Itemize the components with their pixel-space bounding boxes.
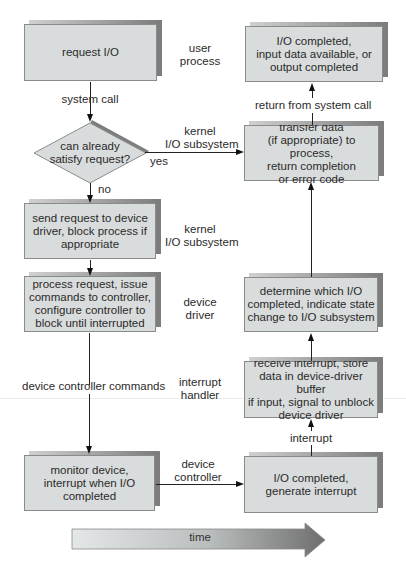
label-no: no bbox=[98, 183, 111, 196]
arrowhead-down-icon bbox=[86, 446, 92, 454]
box-request-io: request I/O bbox=[24, 24, 157, 81]
box-receive-interrupt: receive interrupt, store data in device-… bbox=[244, 361, 378, 418]
edge-monitor-to-io-completed bbox=[156, 484, 237, 485]
box-monitor-device: monitor device, interrupt when I/O compl… bbox=[24, 455, 155, 511]
arrowhead-down-icon bbox=[87, 114, 93, 122]
layer-interrupt-handler: interrupt handler bbox=[172, 376, 228, 402]
time-label: time bbox=[170, 531, 230, 543]
arrowhead-up-icon bbox=[309, 83, 315, 91]
label-system-call: system call bbox=[60, 93, 120, 106]
layer-kernel-io-2: kernel I/O subsystem bbox=[165, 223, 235, 249]
layer-user-process: user process bbox=[175, 42, 225, 68]
label-yes: yes bbox=[150, 155, 168, 168]
layer-device-driver: device driver bbox=[175, 296, 225, 322]
label-device-controller-commands: device controller commands bbox=[22, 380, 157, 393]
edge-receive-to-determine bbox=[311, 340, 312, 361]
arrowhead-down-icon bbox=[87, 195, 93, 203]
arrowhead-down-icon bbox=[87, 268, 93, 276]
edge-io-completed-to-receive bbox=[311, 445, 312, 456]
layer-device-controller: device controller bbox=[170, 458, 226, 484]
box-request-io-text: request I/O bbox=[62, 46, 119, 59]
edge-process-to-monitor-bottom bbox=[89, 394, 90, 448]
decision-text: can already satisfy request? bbox=[40, 140, 140, 166]
box-io-completed-final: I/O completed, input data available, or … bbox=[245, 26, 383, 82]
arrowhead-up-icon bbox=[308, 419, 314, 427]
edge-process-to-monitor-top bbox=[89, 333, 90, 385]
edge-yes-to-transfer bbox=[145, 152, 237, 153]
box-send-request: send request to device driver, block pro… bbox=[24, 203, 156, 259]
label-interrupt: interrupt bbox=[286, 432, 336, 445]
box-determine-io: determine which I/O completed, indicate … bbox=[244, 277, 378, 332]
layer-kernel-io-1: kernel I/O subsystem bbox=[165, 125, 235, 151]
edge-transfer-to-final-bottom bbox=[312, 113, 313, 125]
box-process-request: process request, issue commands to contr… bbox=[24, 276, 156, 332]
arrowhead-up-icon bbox=[308, 333, 314, 341]
box-io-completed-generate: I/O completed, generate interrupt bbox=[244, 456, 378, 513]
arrowhead-right-icon bbox=[236, 481, 244, 487]
edge-determine-to-transfer bbox=[311, 189, 312, 277]
arrowhead-up-icon bbox=[308, 182, 314, 190]
label-return-from-system-call: return from system call bbox=[255, 99, 370, 112]
box-transfer-data: transfer data (if appropriate) to proces… bbox=[244, 125, 379, 181]
edge-transfer-to-final-top bbox=[312, 90, 313, 98]
